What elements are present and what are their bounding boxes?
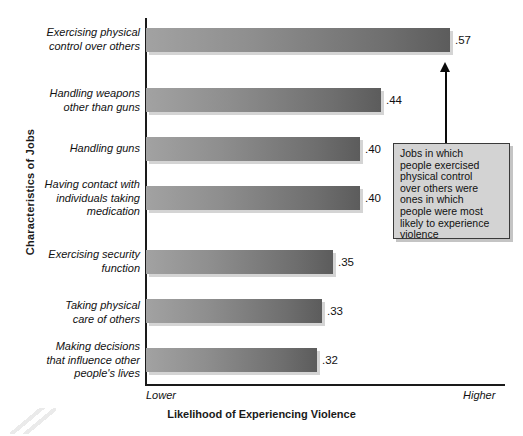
bar-value-label: .33 (327, 299, 343, 323)
bar-value-label: .40 (365, 186, 381, 210)
callout-arrow-head (440, 62, 450, 72)
bar (146, 186, 360, 210)
x-axis-high-label: Higher (463, 389, 495, 401)
annotation-callout-box: Jobs in whichpeople exercisedphysical co… (393, 143, 510, 239)
bar-value-label: .44 (386, 88, 402, 112)
category-label: Handling weaponsother than guns (0, 87, 140, 114)
x-axis-low-label: Lower (146, 389, 176, 401)
scan-page-artifact (10, 408, 56, 434)
category-label: Having contact withindividuals takingmed… (0, 178, 140, 219)
bar (146, 250, 333, 274)
annotation-callout-text: Jobs in whichpeople exercisedphysical co… (400, 148, 508, 241)
bar (146, 137, 360, 161)
bar-value-label: .32 (322, 348, 338, 372)
bar-chart: Characteristics of Jobs Exercising physi… (0, 0, 523, 436)
bar-value-label: .40 (365, 137, 381, 161)
category-label: Exercising physicalcontrol over others (0, 26, 140, 53)
bar (146, 28, 450, 52)
bar (146, 299, 322, 323)
x-axis-line (145, 384, 505, 386)
category-label: Exercising securityfunction (0, 248, 140, 275)
bar (146, 88, 381, 112)
x-axis-title: Likelihood of Experiencing Violence (0, 408, 523, 420)
callout-arrow-shaft (445, 70, 447, 143)
bar (146, 348, 317, 372)
bar-value-label: .35 (338, 250, 354, 274)
bar-value-label: .57 (455, 28, 471, 52)
category-label: Taking physicalcare of others (0, 299, 140, 326)
category-label: Handling guns (0, 142, 140, 156)
category-label: Making decisionsthat influence otherpeop… (0, 340, 140, 381)
